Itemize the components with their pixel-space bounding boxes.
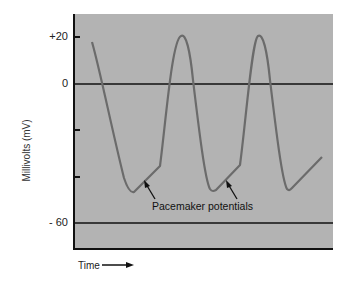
- tick-plus20: +20: [28, 30, 68, 42]
- action-potential-curve: [92, 36, 322, 193]
- tick-0: 0: [28, 77, 68, 89]
- y-axis-title: Millivolts (mV): [21, 111, 32, 191]
- chart-svg: [0, 0, 350, 284]
- y-axis: [73, 14, 75, 249]
- x-axis-title: Time: [78, 260, 100, 271]
- time-arrow-icon: [102, 262, 134, 268]
- x-axis: [73, 248, 333, 250]
- tick-minus60: - 60: [28, 216, 68, 228]
- pacemaker-annotation: Pacemaker potentials: [152, 200, 253, 212]
